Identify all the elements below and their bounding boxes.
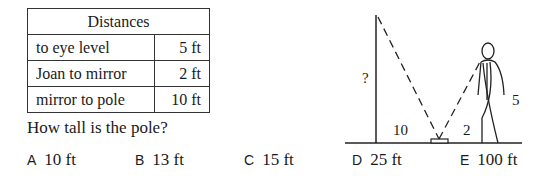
eye-height-label: 5 <box>512 92 520 109</box>
choice-text: 15 ft <box>262 150 294 169</box>
table-header: Distances <box>28 9 210 35</box>
mirror-to-pole-label: 10 <box>393 122 408 139</box>
choice-c[interactable]: C15 ft <box>244 150 294 170</box>
joan-to-mirror-label: 2 <box>463 122 471 139</box>
choice-letter: C <box>244 152 254 168</box>
choice-text: 100 ft <box>477 150 517 169</box>
pole-height-label: ? <box>362 70 369 87</box>
choice-d[interactable]: D25 ft <box>352 150 402 170</box>
choice-a[interactable]: A10 ft <box>27 150 76 170</box>
row-value: 10 ft <box>155 87 210 113</box>
choice-text: 25 ft <box>370 150 402 169</box>
choice-text: 10 ft <box>44 150 76 169</box>
choice-letter: D <box>352 152 362 168</box>
table-row: to eye level 5 ft <box>28 35 210 61</box>
row-value: 5 ft <box>155 35 210 61</box>
choice-letter: A <box>27 152 36 168</box>
table-row: mirror to pole 10 ft <box>28 87 210 113</box>
choice-text: 13 ft <box>152 150 184 169</box>
question-text: How tall is the pole? <box>27 118 168 138</box>
table-row: Joan to mirror 2 ft <box>28 61 210 87</box>
row-label: mirror to pole <box>28 87 155 113</box>
answer-choices: A10 ft B13 ft C15 ft D25 ft E100 ft <box>0 150 547 174</box>
choice-letter: E <box>460 152 469 168</box>
choice-letter: B <box>135 152 144 168</box>
mirror-diagram: ? 10 2 5 <box>330 0 547 150</box>
row-value: 2 ft <box>155 61 210 87</box>
choice-e[interactable]: E100 ft <box>460 150 517 170</box>
row-label: to eye level <box>28 35 155 61</box>
choice-b[interactable]: B13 ft <box>135 150 184 170</box>
row-label: Joan to mirror <box>28 61 155 87</box>
distances-table: Distances to eye level 5 ft Joan to mirr… <box>27 8 210 113</box>
